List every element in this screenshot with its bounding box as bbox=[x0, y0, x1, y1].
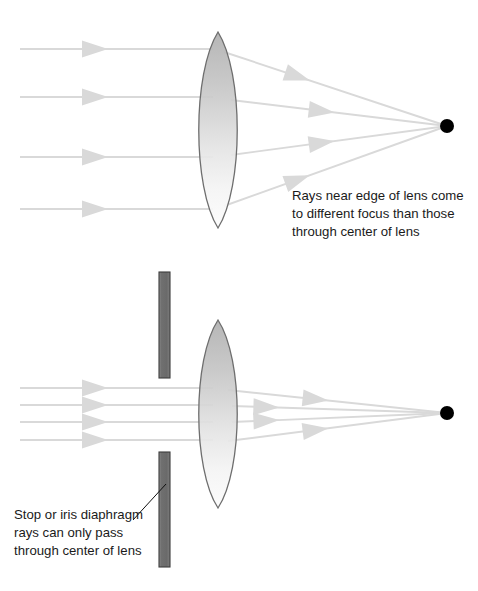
caption-line: rays can only pass bbox=[14, 525, 124, 540]
figure-background bbox=[0, 0, 478, 591]
caption-line: Stop or iris diaphragm bbox=[14, 507, 143, 522]
focal-point-dot bbox=[440, 119, 454, 133]
optics-figure: Rays near edge of lens cometo different … bbox=[0, 0, 478, 591]
focal-point-dot bbox=[440, 406, 454, 420]
caption-line: through center of lens bbox=[292, 224, 420, 239]
caption-line: through center of lens bbox=[14, 543, 142, 558]
stop-bar-lower bbox=[159, 452, 170, 567]
caption-line: Rays near edge of lens come bbox=[292, 188, 464, 203]
optics-diagram-svg: Rays near edge of lens cometo different … bbox=[0, 0, 478, 591]
caption-line: to different focus than those bbox=[292, 206, 455, 221]
stop-bar-upper bbox=[159, 272, 170, 378]
